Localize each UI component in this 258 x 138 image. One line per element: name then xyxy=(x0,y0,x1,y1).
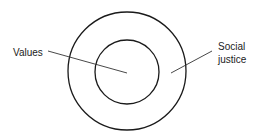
inner-circle-values xyxy=(95,40,159,104)
values-leader-line xyxy=(48,51,127,73)
values-label: Values xyxy=(13,47,43,58)
social-justice-label-line2: justice xyxy=(217,54,247,65)
concentric-circles-diagram: Values Social justice xyxy=(0,0,258,138)
social-justice-label-line1: Social xyxy=(218,41,245,52)
outer-circle-social-justice xyxy=(68,12,186,130)
social-justice-leader-line xyxy=(171,51,212,73)
